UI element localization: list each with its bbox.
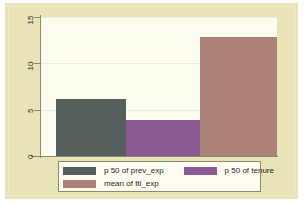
x-axis-line <box>31 156 278 157</box>
y-tick-label-10: 10 <box>26 62 35 92</box>
gridline-y-15 <box>41 17 277 18</box>
legend-swatch-prev-exp <box>63 167 96 175</box>
legend-entry-ttl-exp[interactable]: mean of ttl_exp <box>63 179 159 188</box>
legend-row-bottom: mean of ttl_exp <box>63 178 256 189</box>
y-tick-label-0: 0 <box>26 155 35 185</box>
y-tick-label-15: 15 <box>26 16 35 46</box>
chart-legend: p 50 of prev_exp p 50 of tenure mean of … <box>58 161 261 192</box>
y-tick-mark-10 <box>34 63 40 64</box>
legend-label-tenure: p 50 of tenure <box>225 166 274 175</box>
legend-entry-prev-exp[interactable]: p 50 of prev_exp <box>63 166 164 175</box>
y-tick-mark-15 <box>34 17 40 18</box>
y-tick-mark-0 <box>34 156 40 157</box>
legend-swatch-tenure <box>184 167 217 175</box>
plot-area <box>41 17 277 156</box>
y-tick-label-5: 5 <box>26 108 35 138</box>
bar-prev-exp[interactable] <box>56 99 126 156</box>
bar-ttl-exp[interactable] <box>200 37 277 156</box>
legend-label-prev-exp: p 50 of prev_exp <box>104 166 164 175</box>
legend-row-top: p 50 of prev_exp p 50 of tenure <box>63 165 256 176</box>
legend-entry-tenure[interactable]: p 50 of tenure <box>184 166 274 175</box>
legend-swatch-ttl-exp <box>63 180 96 188</box>
y-tick-mark-5 <box>34 110 40 111</box>
legend-label-ttl-exp: mean of ttl_exp <box>104 179 159 188</box>
bar-tenure[interactable] <box>126 120 200 156</box>
bar-chart-figure: 051015 p 50 of prev_exp p 50 of tenure m… <box>0 0 304 205</box>
y-axis-line <box>40 15 41 158</box>
